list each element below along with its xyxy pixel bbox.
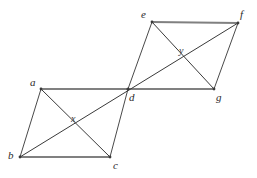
vertex-dot-a bbox=[40, 88, 43, 91]
vertex-dot-b bbox=[19, 156, 22, 159]
intersection-label-y: y bbox=[179, 46, 183, 56]
geometry-figure: a b c d e f g x y bbox=[0, 0, 257, 178]
vertex-dot-g bbox=[213, 88, 216, 91]
edge-e-d bbox=[128, 22, 152, 89]
vertex-dot-c bbox=[109, 156, 112, 159]
edge-a-b bbox=[20, 89, 41, 157]
intersection-label-x: x bbox=[71, 114, 75, 124]
vertex-label-e: e bbox=[141, 9, 146, 20]
edge-e-f bbox=[152, 22, 238, 23]
vertex-label-g: g bbox=[216, 92, 222, 103]
vertex-label-c: c bbox=[113, 160, 118, 171]
edge-d-c bbox=[110, 89, 128, 157]
vertex-dot-f bbox=[237, 22, 240, 25]
vertex-label-a: a bbox=[30, 77, 36, 88]
vertex-label-b: b bbox=[8, 150, 14, 161]
vertex-dot-e bbox=[151, 21, 154, 24]
vertex-label-f: f bbox=[240, 9, 243, 20]
vertex-label-d: d bbox=[129, 92, 135, 103]
edge-f-g bbox=[214, 23, 238, 89]
diagram-canvas bbox=[0, 0, 257, 178]
